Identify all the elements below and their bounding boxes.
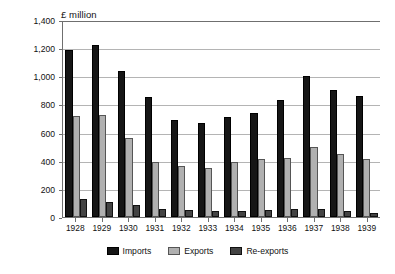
bar-imports-1930 (118, 71, 125, 217)
x-axis-tick-mark (155, 218, 156, 222)
bar-group-1939 (354, 21, 380, 217)
y-axis-tick-mark (59, 49, 63, 50)
x-axis-labels: 1928192919301931193219331934193519361937… (62, 223, 380, 233)
x-axis-tick-cell (62, 218, 89, 222)
bar-imports-1938 (330, 90, 337, 217)
x-axis-tick-label-1939: 1939 (354, 223, 381, 233)
bar-re-exports-1929 (106, 202, 113, 217)
x-axis-tick-cell (301, 218, 328, 222)
x-axis-tick-cell (327, 218, 354, 222)
bar-re-exports-1931 (159, 209, 166, 217)
x-axis-tick-label-1928: 1928 (62, 223, 89, 233)
x-axis-tick-label-1936: 1936 (274, 223, 301, 233)
bar-group-1938 (327, 21, 353, 217)
y-axis-tick-mark (59, 77, 63, 78)
x-axis-tick-label-1931: 1931 (142, 223, 169, 233)
bar-group-1932 (169, 21, 195, 217)
bar-re-exports-1930 (133, 205, 140, 217)
y-axis-tick-mark (59, 162, 63, 163)
x-axis-tick-mark (208, 218, 209, 222)
bar-re-exports-1936 (291, 209, 298, 217)
legend-label-imports: Imports (123, 246, 152, 256)
legend-label-re-exports: Re-exports (246, 246, 288, 256)
bar-group-1937 (301, 21, 327, 217)
bar-re-exports-1935 (265, 210, 272, 217)
bar-exports-1929 (99, 115, 106, 217)
legend-item-re-exports: Re-exports (230, 246, 288, 256)
bar-exports-1939 (363, 159, 370, 217)
x-axis-tick-label-1929: 1929 (89, 223, 116, 233)
legend-item-exports: Exports (168, 246, 213, 256)
bar-exports-1930 (125, 138, 132, 217)
legend-label-exports: Exports (184, 246, 213, 256)
y-axis-tick-label: 400 (0, 157, 55, 167)
bar-imports-1939 (356, 96, 363, 217)
x-axis-tick-cell (354, 218, 381, 222)
bar-group-1931 (142, 21, 168, 217)
bar-group-1933 (195, 21, 221, 217)
x-axis-tick-mark (367, 218, 368, 222)
bar-imports-1935 (250, 113, 257, 217)
bar-exports-1938 (337, 154, 344, 217)
bar-group-1936 (274, 21, 300, 217)
x-axis-tick-label-1938: 1938 (327, 223, 354, 233)
bar-imports-1934 (224, 117, 231, 217)
y-axis-tick-label: 200 (0, 185, 55, 195)
x-axis-tick-cell (89, 218, 116, 222)
y-axis-tick-label: 600 (0, 129, 55, 139)
y-axis-tick-mark (59, 190, 63, 191)
y-axis-unit-label: £ million (61, 9, 97, 20)
x-axis-tick-label-1933: 1933 (195, 223, 222, 233)
x-axis-tick-cell (221, 218, 248, 222)
y-axis-tick-label: 0 (0, 213, 55, 223)
bar-exports-1936 (284, 158, 291, 217)
bar-re-exports-1937 (318, 209, 325, 217)
bar-group-1929 (89, 21, 115, 217)
y-axis-tick-label: 800 (0, 100, 55, 110)
bar-group-1928 (63, 21, 89, 217)
bar-group-1930 (116, 21, 142, 217)
bar-imports-1932 (171, 120, 178, 217)
x-axis-tick-label-1930: 1930 (115, 223, 142, 233)
x-axis-tick-cell (195, 218, 222, 222)
x-axis-tick-mark (340, 218, 341, 222)
bar-re-exports-1933 (212, 211, 219, 217)
x-axis-tick-mark (261, 218, 262, 222)
x-axis-tick-mark (314, 218, 315, 222)
bar-imports-1931 (145, 97, 152, 217)
bar-chart: £ million 02004006008001,0001,2001,400 1… (0, 0, 395, 274)
bar-group-1935 (248, 21, 274, 217)
x-axis-tick-cell (142, 218, 169, 222)
y-axis-tick-label: 1,000 (0, 72, 55, 82)
x-axis-ticks (62, 218, 380, 222)
chart-legend: ImportsExportsRe-exports (0, 246, 395, 256)
legend-item-imports: Imports (107, 246, 152, 256)
x-axis-tick-mark (75, 218, 76, 222)
bar-exports-1937 (310, 147, 317, 217)
bar-exports-1934 (231, 162, 238, 217)
bar-imports-1928 (65, 50, 72, 217)
x-axis-tick-label-1935: 1935 (248, 223, 275, 233)
y-axis-tick-mark (59, 134, 63, 135)
bar-imports-1937 (303, 76, 310, 217)
bar-imports-1933 (198, 123, 205, 217)
y-axis-tick-label: 1,200 (0, 44, 55, 54)
bar-re-exports-1932 (185, 210, 192, 217)
bars-layer (63, 21, 380, 217)
bar-imports-1936 (277, 100, 284, 217)
plot-area (62, 21, 380, 218)
bar-exports-1933 (205, 168, 212, 217)
y-axis-tick-mark (59, 105, 63, 106)
y-axis-tick-mark (59, 21, 63, 22)
x-axis-tick-cell (115, 218, 142, 222)
x-axis-tick-mark (287, 218, 288, 222)
x-axis-tick-cell (248, 218, 275, 222)
legend-swatch-imports (107, 247, 119, 255)
bar-re-exports-1939 (370, 213, 377, 218)
x-axis-tick-mark (102, 218, 103, 222)
bar-exports-1935 (258, 159, 265, 217)
x-axis-tick-cell (168, 218, 195, 222)
bar-re-exports-1938 (344, 211, 351, 217)
x-axis-tick-mark (128, 218, 129, 222)
legend-swatch-re-exports (230, 247, 242, 255)
